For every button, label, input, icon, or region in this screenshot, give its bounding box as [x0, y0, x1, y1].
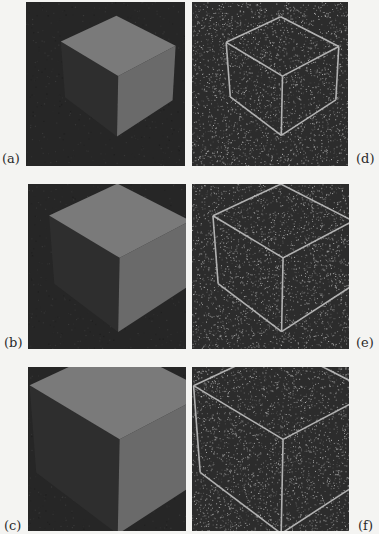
panel-label-b: (b): [4, 336, 22, 349]
panel-label-e: (e): [356, 336, 374, 349]
edge-cube-image: [192, 184, 349, 349]
shaded-cube-image: [28, 184, 186, 349]
shaded-cube-panel-c: [28, 367, 186, 531]
edge-cube-panel-d: [192, 2, 348, 166]
shaded-cube-panel-a: [26, 2, 185, 166]
shaded-cube-image: [28, 367, 186, 531]
shaded-cube-image: [26, 2, 185, 166]
edge-cube-panel-f: [192, 367, 349, 531]
panel-label-c: (c): [4, 519, 21, 532]
edge-cube-panel-e: [192, 184, 349, 349]
edge-cube-image: [192, 367, 349, 531]
panel-label-a: (a): [2, 152, 20, 165]
panel-label-f: (f): [358, 519, 373, 532]
edge-cube-image: [192, 2, 348, 166]
shaded-cube-panel-b: [28, 184, 186, 349]
panel-label-d: (d): [356, 152, 374, 165]
